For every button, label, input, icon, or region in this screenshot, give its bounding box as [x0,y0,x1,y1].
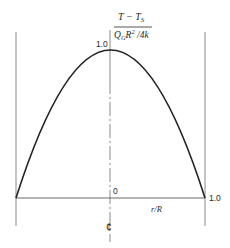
title-denominator: QGR2 /4k [114,28,149,41]
title-numerator: T − TS [118,11,145,24]
peak-value-label: 1.0 [96,39,108,49]
temperature-profile-diagram: T − TS QGR2 /4k 1.0 0 1.0 r/R ¢ [0,0,230,248]
centerline-symbol: ¢ [106,222,112,233]
origin-label: 0 [113,186,118,196]
x-axis-label: r/R [151,204,163,214]
x-end-label: 1.0 [209,193,221,203]
diagram-canvas: T − TS QGR2 /4k 1.0 0 1.0 r/R ¢ [0,0,230,248]
